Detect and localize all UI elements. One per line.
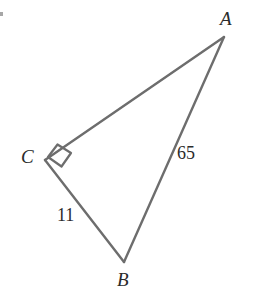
side-length-label-cb: 11 bbox=[57, 206, 74, 224]
vertex-label-a: A bbox=[220, 9, 232, 28]
triangle-drawing bbox=[0, 0, 259, 298]
vertex-label-c: C bbox=[21, 147, 34, 166]
vertex-label-b: B bbox=[117, 270, 129, 289]
geometry-figure: A B C 65 11 bbox=[0, 0, 259, 298]
side-length-label-ab: 65 bbox=[177, 144, 195, 162]
